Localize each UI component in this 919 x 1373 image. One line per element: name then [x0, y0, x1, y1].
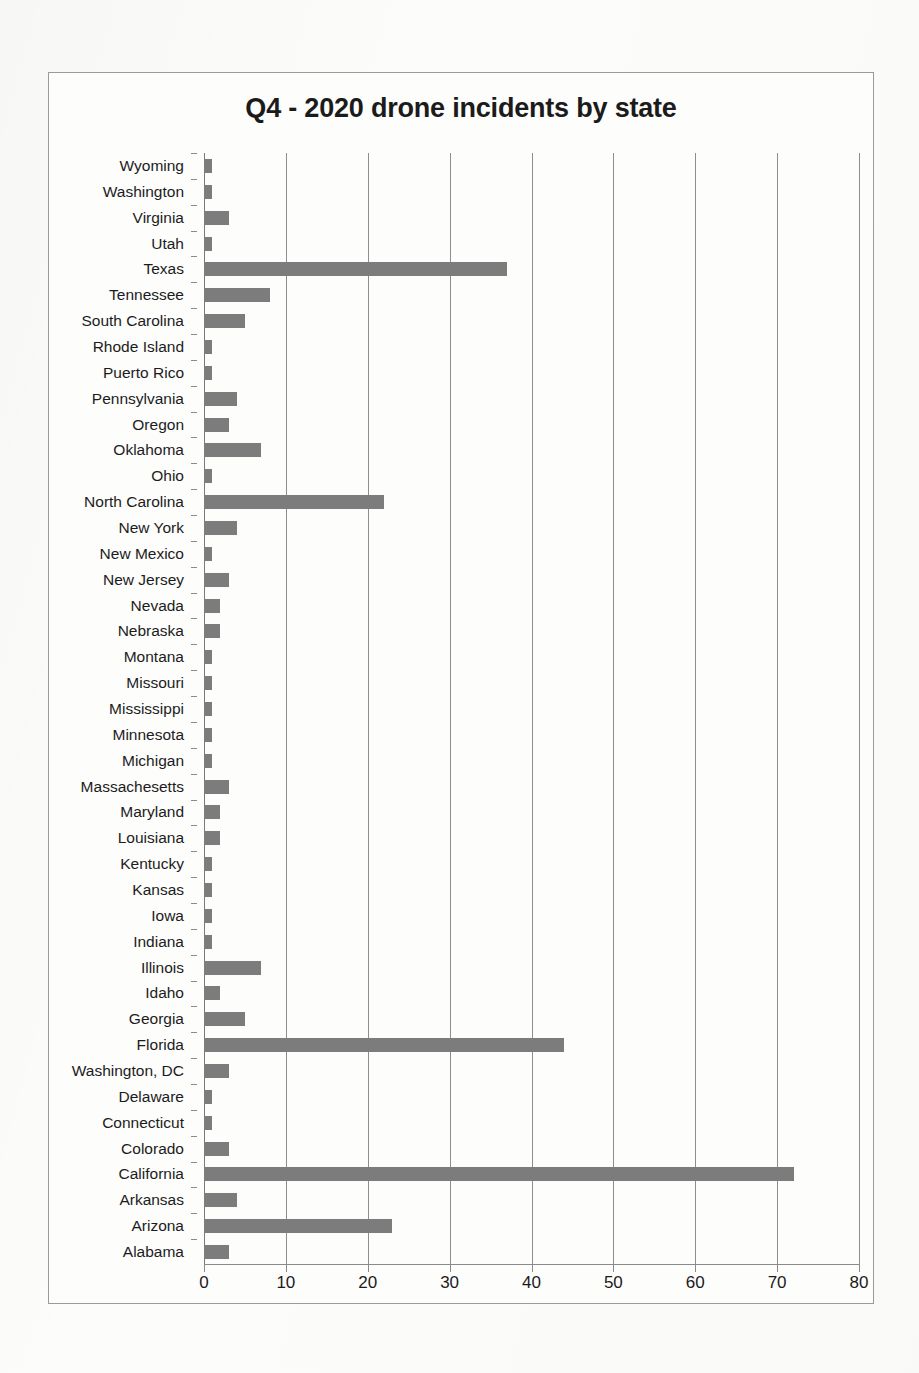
category-label: Texas	[144, 261, 185, 277]
bar[interactable]	[204, 547, 212, 561]
bar-row[interactable]	[204, 1115, 859, 1131]
bar-row[interactable]	[204, 701, 859, 717]
bar[interactable]	[204, 1090, 212, 1104]
bar[interactable]	[204, 702, 212, 716]
category-axis-labels: WyomingWashingtonVirginiaUtahTexasTennes…	[49, 153, 197, 1265]
bar[interactable]	[204, 573, 229, 587]
bar-row[interactable]	[204, 1037, 859, 1053]
bar[interactable]	[204, 1038, 564, 1052]
bar-row[interactable]	[204, 779, 859, 795]
bar-row[interactable]	[204, 287, 859, 303]
bar-row[interactable]	[204, 804, 859, 820]
bar[interactable]	[204, 237, 212, 251]
x-axis-tick-label: 50	[604, 1273, 623, 1293]
bar[interactable]	[204, 805, 220, 819]
bar-row[interactable]	[204, 1218, 859, 1234]
bar-row[interactable]	[204, 882, 859, 898]
category-tick	[191, 437, 197, 438]
bar[interactable]	[204, 935, 212, 949]
bar-row[interactable]	[204, 391, 859, 407]
bar-row[interactable]	[204, 649, 859, 665]
bar-row[interactable]	[204, 236, 859, 252]
category-tick	[191, 1162, 197, 1163]
bar-row[interactable]	[204, 261, 859, 277]
bar-row[interactable]	[204, 494, 859, 510]
bar-row[interactable]	[204, 1063, 859, 1079]
category-label: Connecticut	[102, 1115, 184, 1131]
bar-row[interactable]	[204, 985, 859, 1001]
bar[interactable]	[204, 1064, 229, 1078]
category-label: New York	[119, 520, 184, 536]
bar[interactable]	[204, 1245, 229, 1259]
category-label: Montana	[124, 649, 184, 665]
bar-row[interactable]	[204, 158, 859, 174]
bar[interactable]	[204, 366, 212, 380]
bar[interactable]	[204, 1193, 237, 1207]
bar-row[interactable]	[204, 365, 859, 381]
bar[interactable]	[204, 1167, 794, 1181]
category-tick	[191, 515, 197, 516]
bar[interactable]	[204, 211, 229, 225]
bar[interactable]	[204, 986, 220, 1000]
bar-row[interactable]	[204, 675, 859, 691]
bar-row[interactable]	[204, 1192, 859, 1208]
bar-row[interactable]	[204, 520, 859, 536]
bar[interactable]	[204, 1219, 392, 1233]
bar[interactable]	[204, 262, 507, 276]
bar[interactable]	[204, 1012, 245, 1026]
bar-row[interactable]	[204, 598, 859, 614]
bar-row[interactable]	[204, 830, 859, 846]
bar[interactable]	[204, 728, 212, 742]
bar-row[interactable]	[204, 623, 859, 639]
bar-row[interactable]	[204, 960, 859, 976]
bar-row[interactable]	[204, 313, 859, 329]
bar[interactable]	[204, 418, 229, 432]
bar[interactable]	[204, 288, 270, 302]
bar[interactable]	[204, 469, 212, 483]
bar-row[interactable]	[204, 1089, 859, 1105]
bar[interactable]	[204, 314, 245, 328]
bar-row[interactable]	[204, 546, 859, 562]
bar-row[interactable]	[204, 753, 859, 769]
bar-row[interactable]	[204, 1244, 859, 1260]
bar-row[interactable]	[204, 934, 859, 950]
bar[interactable]	[204, 443, 261, 457]
bar[interactable]	[204, 599, 220, 613]
bar-row[interactable]	[204, 184, 859, 200]
category-label: Kentucky	[120, 856, 184, 872]
category-tick	[191, 1136, 197, 1137]
category-tick	[191, 567, 197, 568]
bar[interactable]	[204, 857, 212, 871]
bar-row[interactable]	[204, 1141, 859, 1157]
bar-row[interactable]	[204, 210, 859, 226]
bar[interactable]	[204, 754, 212, 768]
bar[interactable]	[204, 1142, 229, 1156]
bar[interactable]	[204, 185, 212, 199]
bar[interactable]	[204, 392, 237, 406]
bar[interactable]	[204, 650, 212, 664]
bar-row[interactable]	[204, 1011, 859, 1027]
bar-row[interactable]	[204, 856, 859, 872]
bar-row[interactable]	[204, 572, 859, 588]
bar-row[interactable]	[204, 442, 859, 458]
bar[interactable]	[204, 624, 220, 638]
bar[interactable]	[204, 159, 212, 173]
bar-row[interactable]	[204, 908, 859, 924]
bar[interactable]	[204, 780, 229, 794]
bar-row[interactable]	[204, 417, 859, 433]
bar[interactable]	[204, 676, 212, 690]
category-tick	[191, 360, 197, 361]
bar[interactable]	[204, 883, 212, 897]
bar-row[interactable]	[204, 727, 859, 743]
bar[interactable]	[204, 961, 261, 975]
bar[interactable]	[204, 340, 212, 354]
bar-row[interactable]	[204, 339, 859, 355]
bar[interactable]	[204, 831, 220, 845]
bar[interactable]	[204, 521, 237, 535]
bar-row[interactable]	[204, 468, 859, 484]
bar[interactable]	[204, 495, 384, 509]
bar-row[interactable]	[204, 1166, 859, 1182]
bar[interactable]	[204, 1116, 212, 1130]
bar[interactable]	[204, 909, 212, 923]
category-label: Illinois	[141, 960, 184, 976]
